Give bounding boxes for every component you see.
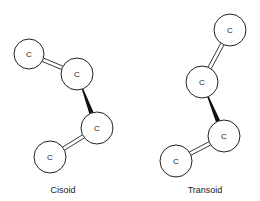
atom-symbol: C: [74, 70, 80, 79]
transoid-carbon-atom-1: C: [214, 14, 246, 46]
transoid-double-bond-0: [208, 43, 224, 69]
cisoid-double-bond-2: [63, 135, 85, 150]
atom-symbol: C: [221, 132, 227, 141]
transoid-carbon-atom-3: C: [208, 120, 240, 152]
transoid-double-bond-2: [189, 142, 210, 155]
cisoid-carbon-atom-1: C: [14, 39, 44, 69]
atoms-layer: CCCCCCCC: [14, 14, 246, 177]
atom-symbol: C: [227, 26, 233, 35]
atom-symbol: C: [173, 157, 179, 166]
cisoid-carbon-atom-2: C: [61, 58, 93, 90]
cisoid-carbon-atom-4: C: [34, 141, 66, 173]
cisoid-label: Cisoid: [50, 185, 75, 195]
atom-symbol: C: [199, 78, 205, 87]
labels-layer: CisoidTransoid: [50, 185, 222, 195]
transoid-label: Transoid: [188, 185, 223, 195]
butadiene-conformations-diagram: CCCCCCCC CisoidTransoid: [0, 0, 260, 201]
transoid-single-bond-wedge: [206, 94, 221, 125]
cisoid-single-bond-wedge: [81, 86, 95, 117]
transoid-carbon-atom-4: C: [160, 145, 192, 177]
cisoid-double-bond-0: [42, 58, 63, 69]
transoid-carbon-atom-2: C: [186, 66, 218, 98]
atom-symbol: C: [26, 50, 32, 59]
cisoid-carbon-atom-3: C: [81, 112, 113, 144]
atom-symbol: C: [47, 153, 53, 162]
atom-symbol: C: [94, 124, 100, 133]
